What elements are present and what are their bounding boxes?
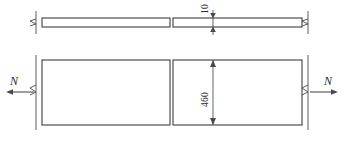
elevation-view: 10 xyxy=(30,4,308,35)
dimension-width: 460 xyxy=(200,60,216,125)
plan-break-right-zigzag xyxy=(302,85,308,95)
plan-break-left-zigzag xyxy=(30,85,36,95)
force-left-group: N xyxy=(6,74,34,95)
elevation-break-left xyxy=(30,11,36,34)
force-right-arrow-head xyxy=(331,89,338,94)
plan-rect-left-outline xyxy=(42,60,170,125)
plan-rect-left xyxy=(42,60,170,125)
elevation-strip-right-outline xyxy=(173,18,302,27)
plan-rect-right xyxy=(173,60,302,125)
plan-rect-right-outline xyxy=(173,60,302,125)
force-left-arrow-head xyxy=(6,89,13,94)
dimension-width-arrow-bottom xyxy=(210,118,216,125)
plan-view: 460 xyxy=(30,55,308,130)
dimension-thickness: 10 xyxy=(200,4,216,35)
elevation-break-left-zigzag xyxy=(30,19,36,26)
drawing-canvas: 10 xyxy=(0,0,345,143)
force-right-label: N xyxy=(323,74,333,88)
force-right-group: N xyxy=(310,74,338,95)
elevation-strip-left-outline xyxy=(42,18,170,27)
elevation-break-right-zigzag xyxy=(302,19,308,26)
elevation-strip-left xyxy=(42,18,170,27)
dimension-width-label: 460 xyxy=(200,92,210,107)
dimension-width-arrow-top xyxy=(210,60,216,67)
plan-break-right xyxy=(302,55,308,130)
dimension-thickness-label: 10 xyxy=(200,4,210,14)
elevation-strip-right xyxy=(173,18,302,27)
engineering-drawing: 10 xyxy=(0,0,345,143)
force-left-label: N xyxy=(9,74,19,88)
elevation-break-right xyxy=(302,11,308,34)
